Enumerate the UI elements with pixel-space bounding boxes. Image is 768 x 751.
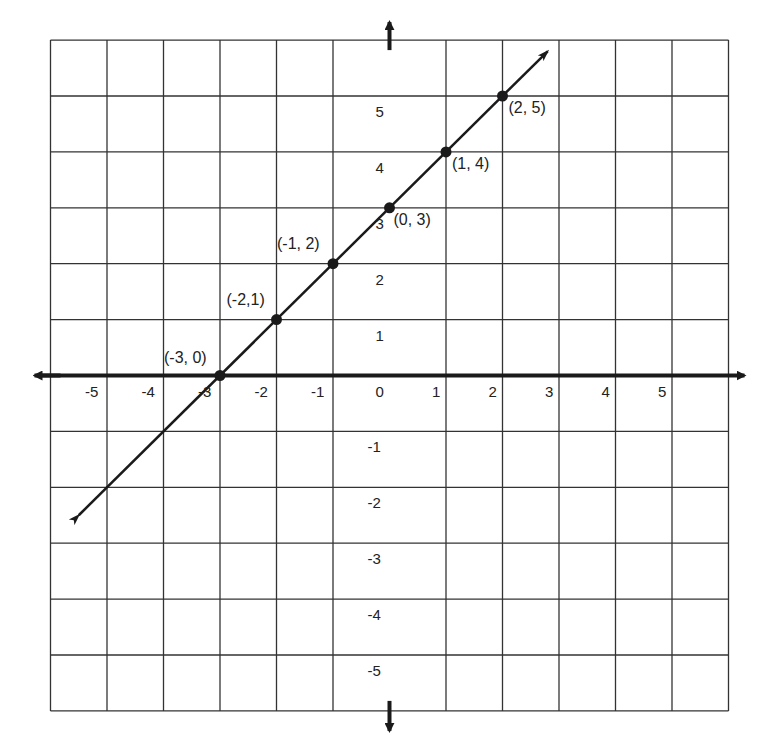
y-tick-label: -1 [368, 439, 381, 454]
point-label: (0, 3) [394, 212, 431, 228]
y-tick-label: 2 [376, 272, 384, 287]
y-tick-label: 4 [376, 160, 384, 175]
y-tick-label: -3 [368, 551, 381, 566]
x-tick-label: 2 [489, 384, 497, 399]
y-tick-label: -2 [368, 495, 381, 510]
data-point [215, 370, 226, 381]
x-tick-label: 1 [432, 384, 440, 399]
data-point [441, 146, 452, 157]
coordinate-plane [0, 0, 768, 751]
x-tick-label: 4 [602, 384, 610, 399]
y-tick-label: 5 [376, 104, 384, 119]
x-tick-label: 0 [376, 384, 384, 399]
x-tick-label: -5 [85, 384, 98, 399]
point-label: (-1, 2) [277, 236, 320, 252]
y-tick-label: 1 [376, 328, 384, 343]
x-tick-label: 3 [545, 384, 553, 399]
data-line [79, 51, 548, 515]
y-tick-label: -5 [368, 663, 381, 678]
y-tick-label: -4 [368, 607, 381, 622]
point-label: (2, 5) [509, 100, 546, 116]
x-tick-label: -1 [311, 384, 324, 399]
data-point [271, 314, 282, 325]
axes [35, 22, 745, 731]
point-label: (-2,1) [227, 292, 265, 308]
y-tick-label: 3 [376, 216, 384, 231]
data-point [328, 258, 339, 269]
x-tick-label: -2 [255, 384, 268, 399]
point-label: (1, 4) [452, 156, 489, 172]
x-tick-label: 5 [658, 384, 666, 399]
x-tick-label: -4 [142, 384, 155, 399]
data-point [497, 91, 508, 102]
x-tick-label: -3 [198, 384, 211, 399]
point-label: (-3, 0) [164, 350, 207, 366]
